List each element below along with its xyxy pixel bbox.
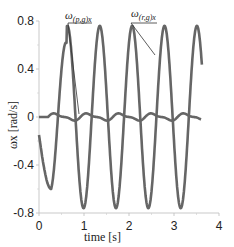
svg-text:ω(p,g)x: ω(p,g)x <box>65 9 92 24</box>
y-tick-label: -0.8 <box>13 206 34 220</box>
annotation-rg-sub: (r,g)x <box>139 13 157 22</box>
x-tick-label: 4 <box>216 219 223 233</box>
x-tick-label: 2 <box>126 219 133 233</box>
series-omega-pg-x <box>39 113 201 120</box>
chart: 0.80.40-0.4-0.8 01234 ω(p,g)x ω(r,g)x ti… <box>0 0 234 247</box>
x-tick-label: 0 <box>36 219 43 233</box>
x-axis: 01234 <box>36 213 223 233</box>
y-tick-label: -0.4 <box>13 158 34 172</box>
y-tick-label: 0.4 <box>17 62 34 76</box>
y-tick-label: 0.8 <box>17 14 34 28</box>
x-axis-title: time [s] <box>84 230 121 244</box>
y-tick-label: 0 <box>27 110 34 124</box>
y-axis-title: ωx [rad/s] <box>6 101 20 149</box>
svg-text:ω(r,g)x: ω(r,g)x <box>131 7 156 22</box>
annotation-omega-pg-x: ω(p,g)x <box>65 9 92 114</box>
x-tick-label: 3 <box>171 219 178 233</box>
